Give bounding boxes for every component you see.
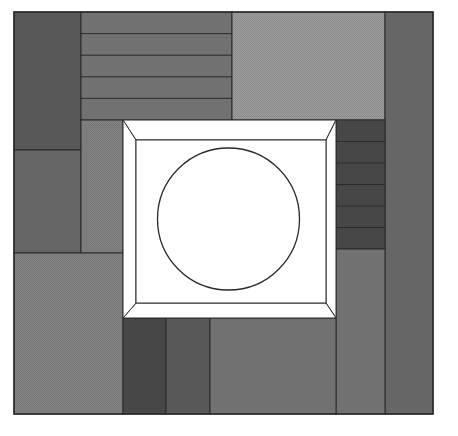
top-striped-band-texture bbox=[81, 12, 232, 120]
top-right-light-panel-texture bbox=[232, 12, 385, 120]
bottom-left-strip-1-texture bbox=[123, 318, 166, 414]
left-middle-block-texture bbox=[14, 150, 81, 253]
frame-bevel-left bbox=[123, 120, 136, 318]
bottom-middle-block-texture bbox=[210, 318, 336, 414]
frame-bevel-top bbox=[123, 120, 336, 140]
quilt-diagram bbox=[0, 0, 458, 436]
left-bottom-block-texture bbox=[14, 253, 123, 414]
left-inner-strip-texture bbox=[81, 120, 123, 253]
frame-bevel-bottom bbox=[123, 303, 336, 318]
top-left-square-texture bbox=[14, 12, 81, 150]
bottom-left-strip-2-texture bbox=[166, 318, 210, 414]
center-circle bbox=[158, 148, 300, 290]
frame-bevel-right bbox=[326, 120, 336, 318]
right-column-texture bbox=[385, 12, 433, 414]
right-inner-column-texture bbox=[336, 249, 385, 414]
